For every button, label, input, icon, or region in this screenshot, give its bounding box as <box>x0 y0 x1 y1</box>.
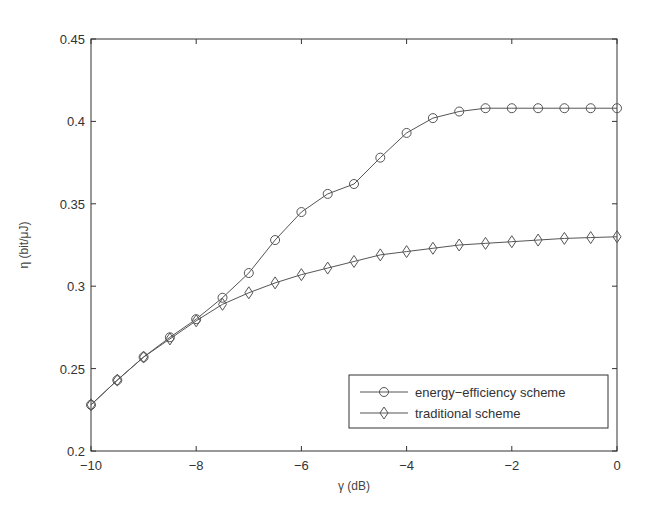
y-tick-label: 0.2 <box>67 444 85 459</box>
y-tick-label: 0.25 <box>60 362 85 377</box>
y-tick-label: 0.45 <box>60 32 85 47</box>
x-tick-label: −2 <box>504 458 519 473</box>
x-tick-label: −8 <box>189 458 204 473</box>
x-tick-label: −6 <box>294 458 309 473</box>
y-tick-label: 0.3 <box>67 279 85 294</box>
y-tick-label: 0.35 <box>60 197 85 212</box>
y-axis-label: η (bit/μJ) <box>17 222 31 269</box>
x-axis-label: γ (dB) <box>338 479 370 493</box>
legend: energy−efficiency scheme traditional sch… <box>349 375 608 428</box>
y-tick-label: 0.4 <box>67 114 85 129</box>
x-tick-label: 0 <box>613 458 620 473</box>
line-chart: 0.20.250.30.350.40.45 −10−8−6−4−20 η (bi… <box>0 0 648 517</box>
x-tick-label: −10 <box>80 458 102 473</box>
legend-label-energy: energy−efficiency scheme <box>415 385 565 400</box>
x-tick-label: −4 <box>399 458 414 473</box>
legend-label-traditional: traditional scheme <box>415 406 521 421</box>
